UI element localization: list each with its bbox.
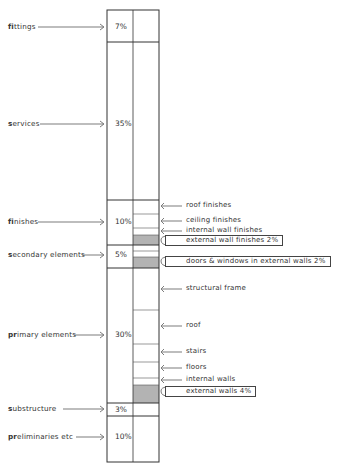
sublabel-structural-frame: structural frame [186,284,246,293]
sublabel-external-walls: external walls 4% [165,386,256,397]
sublabel-roof: roof [186,321,201,330]
label-fittings: fittings [8,22,36,31]
doors-windows-shade [133,257,159,268]
label-substructure: substructure [8,404,56,413]
sublabel-internal-walls: internal walls [186,375,235,384]
percent-services: 35% [115,119,132,128]
label-services: services [8,119,40,128]
label-secondary-elements: secondary elements [8,250,85,259]
label-preliminaries: preliminaries etc [8,432,73,441]
left-arrows [38,24,104,440]
label-primary-elements: primary elements [8,330,76,339]
sublabel-internal-wall-finishes: internal wall finishes [186,226,262,235]
percent-substructure: 3% [115,405,127,414]
percent-fittings: 7% [115,22,127,31]
percent-finishes: 10% [115,217,132,226]
external-walls-shade [133,385,159,403]
right-arrows [161,203,182,396]
sublabel-doors-windows: doors & windows in external walls 2% [165,256,331,267]
percent-preliminaries: 10% [115,432,132,441]
sublabel-external-wall-finishes: external wall finishes 2% [165,235,283,246]
sublabel-ceiling-finishes: ceiling finishes [186,216,241,225]
sublabel-floors: floors [186,363,207,372]
label-finishes: finishes [8,217,38,226]
sublabel-roof-finishes: roof finishes [186,201,231,210]
external-wall-finishes-shade [133,235,159,245]
sublabel-stairs: stairs [186,347,206,356]
percent-secondary-elements: 5% [115,250,127,259]
percent-primary-elements: 30% [115,330,132,339]
